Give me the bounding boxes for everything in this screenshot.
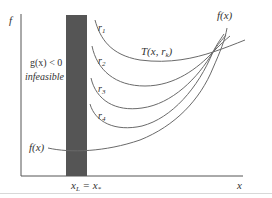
infeasible-region-bar [66,15,87,176]
objective-label-left: f(x) [29,141,45,154]
penalty-family-label: T(x, rk) [141,45,173,59]
objective-label-top: f(x) [217,9,233,22]
bottom-divider [0,193,272,194]
optimum-label: xL = x* [70,179,102,193]
r1-label: r1 [98,22,105,35]
y-axis-label: f [9,14,14,26]
r3-label: r3 [98,83,106,96]
r4-label: r4 [98,110,106,123]
infeasible-label: infeasible [25,71,64,82]
r2-label: r2 [98,55,106,68]
penalty-function-diagram: f x g(x) < 0 infeasible f(x) f(x) T(x, r… [0,0,272,198]
x-axis-label: x [236,179,242,191]
constraint-label: g(x) < 0 [30,57,62,69]
